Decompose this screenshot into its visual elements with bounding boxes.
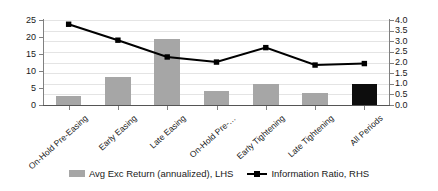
plot-area: [44, 20, 389, 105]
legend-item-information-ratio: Information Ratio, RHS: [247, 168, 369, 179]
line-series: [44, 20, 389, 105]
bar-swatch-icon: [69, 170, 85, 177]
category-tick: [364, 106, 365, 110]
line-marker-icon: [247, 170, 267, 177]
right-axis-label: 1.5: [395, 69, 408, 78]
line-marker: [312, 62, 317, 67]
line-marker: [66, 22, 71, 27]
left-axis-tick: [39, 54, 43, 55]
right-axis-tick: [390, 63, 394, 64]
line-marker: [115, 37, 120, 42]
right-axis-label: 3.5: [395, 26, 408, 35]
category-label: Late Easing: [148, 113, 188, 150]
right-axis-label: 0.5: [395, 90, 408, 99]
legend-item-avg-exc-return: Avg Exc Return (annualized), LHS: [69, 168, 234, 179]
right-axis-label: 0.0: [395, 101, 408, 110]
right-axis-tick: [390, 73, 394, 74]
left-axis-label: 20: [26, 33, 36, 42]
category-tick: [167, 106, 168, 110]
line-marker: [362, 61, 367, 66]
category-tick: [69, 106, 70, 110]
left-axis-label: 25: [26, 16, 36, 25]
category-label: Late Tightening: [286, 113, 336, 159]
right-axis-label: 1.0: [395, 79, 408, 88]
right-axis-label: 4.0: [395, 16, 408, 25]
left-axis-line: [43, 19, 44, 106]
right-axis-tick: [390, 94, 394, 95]
line-marker: [214, 59, 219, 64]
category-label: Early Tightening: [234, 113, 286, 161]
left-axis-tick: [39, 37, 43, 38]
category-tick: [315, 106, 316, 110]
category-label: On-Hold Pre-…: [187, 113, 237, 160]
right-axis-label: 2.0: [395, 58, 408, 67]
category-label: Early Easing: [96, 113, 138, 152]
category-tick: [217, 106, 218, 110]
left-axis-tick: [39, 105, 43, 106]
line-marker: [263, 45, 268, 50]
legend-label-avg-exc-return: Avg Exc Return (annualized), LHS: [89, 168, 234, 179]
line-marker: [165, 54, 170, 59]
left-axis-label: 10: [26, 67, 36, 76]
left-axis-tick: [39, 71, 43, 72]
right-axis-tick: [390, 41, 394, 42]
right-axis-tick: [390, 84, 394, 85]
category-label: All Periods: [348, 113, 385, 148]
left-axis-label: 15: [26, 50, 36, 59]
right-axis-tick: [390, 105, 394, 106]
chart-legend: Avg Exc Return (annualized), LHS Informa…: [0, 168, 438, 179]
chart: 0510152025 0.00.51.01.52.02.53.03.54.0 O…: [0, 0, 438, 191]
line-path: [69, 24, 365, 65]
left-axis-tick: [39, 20, 43, 21]
left-axis-label: 5: [31, 84, 36, 93]
right-axis-tick: [390, 31, 394, 32]
category-tick: [266, 106, 267, 110]
category-label: On-Hold Pre-Easing: [26, 113, 89, 171]
legend-label-information-ratio: Information Ratio, RHS: [271, 168, 369, 179]
left-axis-label: 0: [31, 101, 36, 110]
right-axis-label: 3.0: [395, 37, 408, 46]
category-tick: [118, 106, 119, 110]
left-axis-tick: [39, 88, 43, 89]
right-axis-tick: [390, 20, 394, 21]
right-axis-tick: [390, 52, 394, 53]
right-axis-label: 2.5: [395, 47, 408, 56]
